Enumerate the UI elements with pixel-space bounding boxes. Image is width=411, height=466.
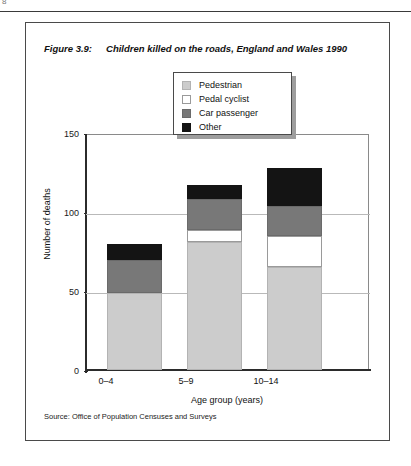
bar-segment-pedal-cyclist[interactable] xyxy=(267,236,322,267)
legend-swatch-other-icon xyxy=(182,123,191,132)
legend-swatch-car-passenger-icon xyxy=(182,109,191,118)
bar-segment-pedestrian[interactable] xyxy=(187,242,242,370)
legend-item-car-passenger[interactable]: Car passenger xyxy=(182,107,258,120)
bar-segment-car-passenger[interactable] xyxy=(267,206,322,236)
legend-label-other: Other xyxy=(199,123,222,132)
x-tick-label-10-14: 10–14 xyxy=(231,376,301,386)
chart-legend: Pedestrian Pedal cyclist Car passenger O… xyxy=(173,72,292,135)
legend-swatch-pedestrian-icon xyxy=(182,81,191,90)
chart-area: Number of deaths 0 50 100 150 xyxy=(26,23,391,442)
page-header-rule xyxy=(0,11,411,12)
bar-stack-5-9[interactable] xyxy=(187,185,242,370)
bar-segment-pedestrian[interactable] xyxy=(267,267,322,370)
y-tick-label-50: 50 xyxy=(49,287,79,297)
legend-item-pedal-cyclist[interactable]: Pedal cyclist xyxy=(182,93,249,106)
page-number: 8 xyxy=(2,0,6,6)
bar-segment-car-passenger[interactable] xyxy=(107,260,162,293)
x-tick-label-5-9: 5–9 xyxy=(151,376,221,386)
y-tick-label-0: 0 xyxy=(49,366,79,376)
bar-stack-10-14[interactable] xyxy=(267,168,322,370)
y-tick-label-150: 150 xyxy=(49,129,79,139)
plot-area xyxy=(85,134,369,371)
legend-swatch-pedal-cyclist-icon xyxy=(182,95,191,104)
source-note: Source: Office of Population Censuses an… xyxy=(44,412,216,421)
x-tick-label-0-4: 0–4 xyxy=(71,376,141,386)
bar-stack-0-4[interactable] xyxy=(107,244,162,370)
bar-segment-other[interactable] xyxy=(187,185,242,199)
bar-segment-other[interactable] xyxy=(267,168,322,206)
x-axis-title: Age group (years) xyxy=(85,395,369,405)
legend-label-pedestrian: Pedestrian xyxy=(199,81,242,90)
legend-item-pedestrian[interactable]: Pedestrian xyxy=(182,79,242,92)
bar-segment-car-passenger[interactable] xyxy=(187,199,242,230)
legend-label-car-passenger: Car passenger xyxy=(199,109,258,118)
figure-container: Figure 3.9:Children killed on the roads,… xyxy=(25,22,390,441)
y-tick-label-100: 100 xyxy=(49,208,79,218)
y-axis-ticks: 0 50 100 150 xyxy=(47,134,79,371)
legend-item-other[interactable]: Other xyxy=(182,121,222,134)
y-axis-line xyxy=(85,134,87,373)
legend-label-pedal-cyclist: Pedal cyclist xyxy=(199,95,249,104)
bar-segment-pedal-cyclist[interactable] xyxy=(187,230,242,242)
bar-segment-other[interactable] xyxy=(107,244,162,260)
bar-segment-pedestrian[interactable] xyxy=(107,293,162,370)
